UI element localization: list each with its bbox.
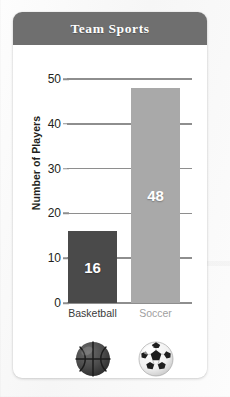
y-tick-label-40: 40 [35, 117, 61, 131]
bar-basketball[interactable]: 16 [68, 231, 117, 303]
y-tick-mark-20 [63, 213, 69, 215]
category-label-basketball: Basketball [58, 307, 127, 319]
y-tick-label-30: 30 [35, 162, 61, 176]
bar-value-basketball: 16 [84, 259, 101, 276]
y-tick-mark-50 [63, 78, 69, 80]
basketball-icon [71, 337, 115, 378]
bar-value-soccer: 48 [147, 187, 164, 204]
chart-plot-area: Number of Players 01020304050 16 48 Bask… [13, 45, 207, 378]
bar-soccer[interactable]: 48 [131, 88, 180, 303]
y-tick-label-10: 10 [35, 251, 61, 265]
y-tick-mark-40 [63, 123, 69, 125]
chart-header-bar: Team Sports [13, 12, 207, 45]
gridline-50 [67, 78, 192, 80]
y-tick-label-20: 20 [35, 206, 61, 220]
category-label-soccer: Soccer [121, 307, 190, 319]
soccer-ball-icon [134, 337, 178, 378]
y-tick-mark-30 [63, 168, 69, 170]
y-tick-label-50: 50 [35, 72, 61, 86]
chart-title: Team Sports [70, 21, 149, 37]
team-sports-chart-card: Team Sports Number of Players 0102030405… [13, 12, 207, 378]
